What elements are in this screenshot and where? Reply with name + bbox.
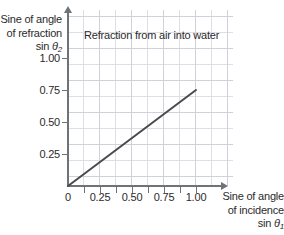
chart-title: Refraction from air into water	[84, 29, 219, 42]
refraction-line-chart: 1.00 0.75 0.50 0.25 0 0.25 0.50 0.75 1.0…	[0, 0, 284, 235]
y-axis-label-line2: of refraction	[0, 27, 62, 41]
y-sin-text: sin	[36, 40, 49, 52]
x-axis-label: Sine of angle of incidence sin θ1	[199, 190, 284, 234]
data-series-line	[68, 90, 196, 186]
x-sin-text: sin	[258, 217, 271, 229]
y-symbol-subscript: 2	[58, 45, 62, 54]
y-axis-label: Sine of angle of refraction sin θ2	[0, 13, 62, 57]
x-axis-label-line1: Sine of angle	[199, 190, 284, 204]
x-axis-label-line2: of incidence	[199, 204, 284, 218]
y-axis-label-line1: Sine of angle	[0, 13, 62, 27]
x-symbol-subscript: 1	[280, 222, 284, 231]
x-axis-label-symbol: sin θ1	[199, 217, 284, 234]
y-axis-label-symbol: sin θ2	[0, 40, 62, 57]
